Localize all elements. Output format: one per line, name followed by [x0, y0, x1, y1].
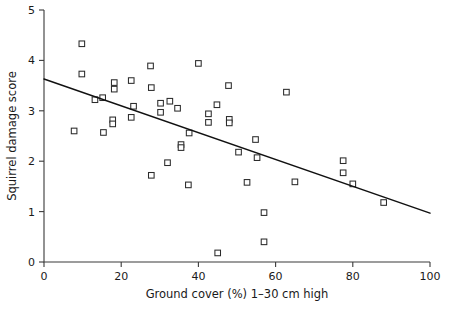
data-point-marker: [158, 100, 164, 106]
data-point-marker: [253, 137, 259, 143]
x-tick-label: 60: [269, 270, 283, 283]
x-axis-title: Ground cover (%) 1–30 cm high: [146, 287, 329, 301]
data-point-marker: [110, 121, 116, 127]
y-tick-label: 1: [28, 206, 35, 219]
data-point-marker: [226, 83, 232, 89]
y-tick-label: 2: [28, 155, 35, 168]
data-point-marker: [215, 250, 221, 256]
data-point-marker: [178, 145, 184, 151]
data-point-marker: [149, 85, 155, 91]
data-point-marker: [148, 63, 154, 69]
data-point-marker: [111, 80, 117, 86]
data-point-marker: [206, 120, 212, 126]
data-point-marker: [128, 78, 134, 84]
data-point-marker: [158, 110, 164, 116]
y-axis-title: Squirrel damage score: [5, 71, 19, 201]
data-point-marker: [284, 89, 290, 95]
data-point-marker: [292, 179, 298, 185]
x-tick-label: 40: [191, 270, 205, 283]
data-point-marker: [128, 115, 134, 121]
x-tick-label: 0: [41, 270, 48, 283]
scatter-plot-figure: 020406080100 012345 Ground cover (%) 1–3…: [0, 0, 449, 311]
data-point-marker: [186, 182, 192, 188]
x-axis-tick-labels: 020406080100: [41, 270, 441, 283]
axis-lines: [44, 10, 430, 262]
y-tick-label: 5: [28, 4, 35, 17]
data-point-marker: [254, 155, 260, 161]
data-point-marker: [261, 239, 267, 245]
data-point-marker: [131, 103, 137, 109]
data-point-marker: [261, 210, 267, 216]
data-point-marker: [340, 158, 346, 164]
data-point-marker: [226, 120, 232, 126]
y-tick-label: 3: [28, 105, 35, 118]
data-point-marker: [214, 102, 220, 108]
data-point-marker: [111, 86, 117, 92]
x-tick-label: 80: [346, 270, 360, 283]
data-point-marker: [381, 200, 387, 206]
data-point-marker: [149, 173, 155, 179]
data-point-marker: [101, 130, 107, 136]
data-point-marker: [175, 105, 181, 111]
y-tick-label: 0: [28, 256, 35, 269]
data-point-marker: [165, 160, 171, 166]
regression-trendline: [44, 79, 430, 213]
data-point-marker: [206, 111, 212, 117]
data-point-marker: [236, 149, 242, 155]
y-axis-ticks: [39, 10, 44, 262]
data-point-marker: [79, 71, 85, 77]
x-tick-label: 20: [114, 270, 128, 283]
axes-group: 020406080100 012345: [28, 4, 441, 283]
x-tick-label: 100: [420, 270, 441, 283]
data-point-marker: [244, 180, 250, 186]
data-point-marker: [196, 61, 202, 67]
data-point-marker: [167, 98, 173, 104]
data-point-marker: [340, 170, 346, 176]
x-axis-ticks: [44, 262, 430, 267]
y-axis-tick-labels: 012345: [28, 4, 35, 269]
y-tick-label: 4: [28, 54, 35, 67]
data-point-markers: [71, 41, 386, 256]
data-point-marker: [79, 41, 85, 47]
data-point-marker: [71, 128, 77, 134]
data-point-marker: [186, 130, 192, 136]
chart-canvas: 020406080100 012345 Ground cover (%) 1–3…: [0, 0, 449, 311]
